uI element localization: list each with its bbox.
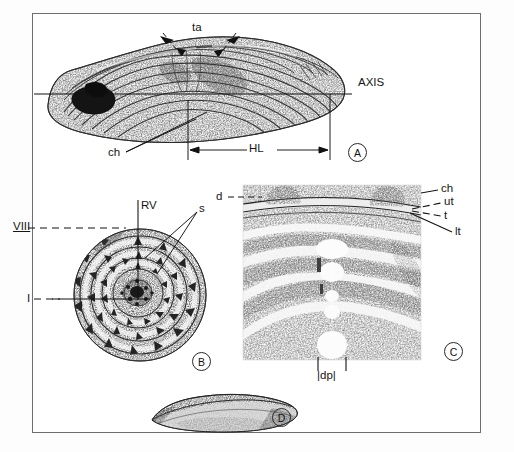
panel-key-c: C: [444, 342, 463, 361]
panel-key-b: B: [192, 352, 211, 371]
figure-plate: ta AXIS ch HL A VIII RV s I B d ch ut t …: [0, 0, 514, 452]
panel-c-illustration: [243, 185, 421, 360]
label-viii: VIII: [13, 221, 30, 233]
dp-bracket-right: |: [333, 369, 336, 381]
dp-text: dp: [320, 369, 333, 381]
panel-key-a: A: [348, 143, 367, 162]
label-lt: lt: [455, 226, 461, 238]
label-t: t: [444, 210, 447, 222]
label-s: s: [199, 203, 205, 215]
label-d: d: [216, 191, 222, 203]
label-ut: ut: [444, 196, 454, 208]
panel-key-d: D: [272, 408, 291, 427]
panel-a-illustration: [40, 30, 360, 155]
label-hl: HL: [249, 143, 264, 155]
label-ch-panel-c: ch: [441, 183, 453, 195]
label-rv: RV: [141, 200, 157, 212]
panel-b-illustration: [70, 225, 212, 367]
illustration-canvas: [0, 0, 514, 452]
label-ch-panel-a: ch: [108, 147, 120, 159]
label-dp: |dp|: [317, 370, 336, 382]
label-ta: ta: [192, 22, 202, 34]
label-i: I: [27, 293, 30, 305]
label-axis: AXIS: [358, 77, 384, 89]
